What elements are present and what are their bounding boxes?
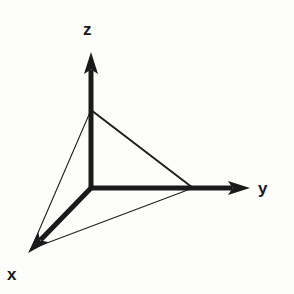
y-axis-label: y — [258, 180, 267, 197]
coordinate-axes-diagram: z y x — [0, 0, 294, 294]
triangle-edge-x-to-y — [31, 188, 193, 249]
axes-drawing — [0, 0, 294, 294]
x-axis-label: x — [7, 266, 16, 283]
z-axis-label: z — [83, 21, 92, 38]
triangle-edge-z-to-y — [91, 110, 193, 188]
x-axis-line — [41, 188, 91, 240]
triangle-edge-z-to-x — [31, 110, 91, 249]
